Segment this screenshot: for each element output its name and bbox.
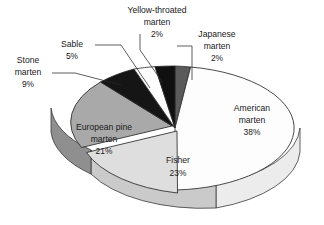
label-european-pine-marten-line1: European pine — [76, 122, 132, 132]
label-american-marten-line2: marten — [239, 115, 266, 125]
label-american-marten-percent: 38% — [244, 127, 261, 137]
label-fisher-percent: 23% — [170, 168, 187, 178]
label-yellow-throated-marten-line1: Yellow-throated — [128, 5, 187, 15]
label-japanese-marten-line2: marten — [204, 41, 231, 51]
label-yellow-throated-marten-percent: 2% — [151, 29, 164, 39]
label-yellow-throated-marten-line2: marten — [144, 17, 171, 27]
label-american-marten-line1: American — [234, 103, 271, 113]
label-stone-marten: Stone marten 9% — [15, 55, 42, 89]
label-stone-marten-line1: Stone — [17, 55, 40, 65]
label-yellow-throated-marten: Yellow-throated marten 2% — [128, 5, 187, 39]
label-japanese-marten-line1: Japanese — [198, 29, 235, 39]
pie-chart-svg: Yellow-throated marten 2% Japanese marte… — [0, 0, 324, 225]
label-japanese-marten-percent: 2% — [211, 53, 224, 63]
label-sable: Sable 5% — [61, 39, 83, 61]
pie-chart-container: Yellow-throated marten 2% Japanese marte… — [0, 0, 324, 225]
label-japanese-marten: Japanese marten 2% — [198, 29, 235, 63]
label-stone-marten-line2: marten — [15, 67, 42, 77]
label-european-pine-marten-line2: marten — [91, 134, 118, 144]
label-stone-marten-percent: 9% — [22, 79, 35, 89]
label-fisher-line1: Fisher — [166, 155, 190, 165]
label-sable-percent: 5% — [66, 51, 79, 61]
label-sable-line1: Sable — [61, 39, 83, 49]
label-european-pine-marten-percent: 21% — [96, 146, 113, 156]
